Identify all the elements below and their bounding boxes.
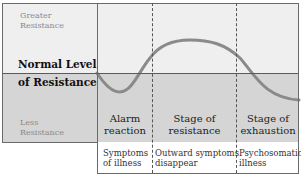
greater-label-line2: Resistance (20, 21, 64, 31)
effect-line2: illness (239, 158, 301, 168)
effect-line1: Outward symptoms (155, 148, 239, 158)
stage-resistance: Stage of resistance (153, 113, 236, 137)
normal-level-label-line2: of Resistance (18, 76, 97, 88)
effect-line2: of illness (103, 158, 148, 168)
stage-name-line2: exhaustion (237, 125, 299, 137)
stage-name-line1: Alarm (98, 113, 152, 125)
axis-divider (97, 3, 98, 173)
stage-alarm-reaction: Alarm reaction (98, 113, 152, 137)
stage-name-line1: Stage of (153, 113, 236, 125)
effect-line1: Psychosomatic (239, 148, 301, 158)
effect-alarm: Symptoms of illness (103, 148, 148, 168)
stage-name-line2: resistance (153, 125, 236, 137)
stage-name-line2: reaction (98, 125, 152, 137)
less-resistance-label: Less Resistance (20, 118, 64, 138)
normal-level-label-line1: Normal Level (18, 58, 97, 70)
effect-resistance: Outward symptoms disappear (155, 148, 239, 168)
effect-line2: disappear (155, 158, 239, 168)
greater-label-line1: Greater (20, 11, 64, 21)
stage-divider-1 (152, 3, 153, 173)
less-label-line2: Resistance (20, 128, 64, 138)
stage-exhaustion: Stage of exhaustion (237, 113, 299, 137)
less-label-line1: Less (20, 118, 64, 128)
stage-name-line1: Stage of (237, 113, 299, 125)
greater-resistance-label: Greater Resistance (20, 11, 64, 31)
effect-line1: Symptoms (103, 148, 148, 158)
effect-exhaustion: Psychosomatic illness (239, 148, 301, 168)
